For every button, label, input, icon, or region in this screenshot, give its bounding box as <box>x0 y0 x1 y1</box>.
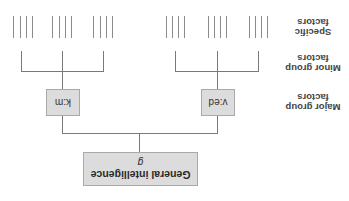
major-group-factors-label: Major group factors <box>281 92 345 112</box>
minor-branch <box>103 51 104 72</box>
specific-factors-label: Specific factors <box>281 17 345 37</box>
major-factor-box-ved: v:ed <box>201 89 235 116</box>
major-factor-label: k:m <box>55 97 71 108</box>
general-intelligence-box: General intelligence g <box>83 152 198 186</box>
minor-stem-left <box>217 72 218 89</box>
minor-branch <box>176 51 177 72</box>
general-intelligence-label: General intelligence <box>91 169 191 181</box>
minor-branch <box>22 51 23 72</box>
major-drop-left <box>217 116 218 134</box>
major-drop-right <box>63 116 64 134</box>
minor-branch <box>217 51 218 72</box>
minor-group-factors-label: Minor group factors <box>281 53 345 73</box>
major-factor-label: v:ed <box>209 97 228 108</box>
major-factor-box-km: k:m <box>46 89 80 116</box>
minor-stem-right <box>63 72 64 89</box>
major-connector-horizontal <box>63 133 218 134</box>
minor-branch <box>258 51 259 72</box>
g-symbol: g <box>138 157 144 168</box>
root-connector-vertical <box>140 134 141 152</box>
minor-branch <box>63 51 64 72</box>
diagram-canvas: General intelligence g v:ed k:m <box>0 0 349 201</box>
